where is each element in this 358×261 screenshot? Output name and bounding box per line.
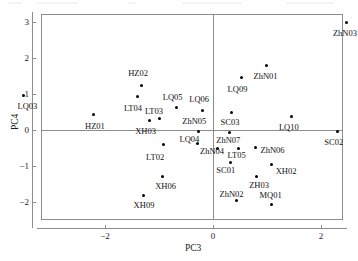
data-point-label: LQ09 xyxy=(228,85,248,94)
data-point xyxy=(270,163,273,166)
y-axis-tick-label: 3 xyxy=(9,18,29,27)
x-axis-scale-line xyxy=(37,228,347,229)
data-point xyxy=(336,130,339,133)
data-point-label: LQ04 xyxy=(180,135,200,144)
data-point-label: XH06 xyxy=(155,182,176,191)
x-axis-tick-label: 0 xyxy=(207,232,219,241)
x-axis-tick-label: 2 xyxy=(315,232,327,241)
data-point-label: XH02 xyxy=(276,167,297,176)
y-axis-tick xyxy=(32,94,36,95)
y-axis-tick xyxy=(32,130,36,131)
y-axis-tick-label: 1 xyxy=(9,90,29,99)
data-point xyxy=(140,84,143,87)
data-point-label: HZ02 xyxy=(128,69,148,78)
y-axis-tick-label: −1 xyxy=(9,162,29,171)
data-point xyxy=(235,199,238,202)
data-point-label: ZH03 xyxy=(249,181,269,190)
data-point-label: LT05 xyxy=(228,151,246,160)
data-point-label: XH03 xyxy=(135,127,156,136)
x-axis-tick xyxy=(213,225,214,229)
page-scan-artifact xyxy=(0,0,358,10)
data-point xyxy=(22,94,25,97)
y-axis-tick xyxy=(32,58,36,59)
data-point xyxy=(255,175,258,178)
scatter-plot-figure: −202−2−10123 LQ03HZ01HZ02LT04LT03XH03LQ0… xyxy=(0,0,358,261)
data-point-label: LQ03 xyxy=(18,102,38,111)
data-point xyxy=(201,109,204,112)
data-point xyxy=(228,131,231,134)
data-point-label: ZhN06 xyxy=(261,146,285,155)
y-axis-scale-line xyxy=(32,12,33,228)
data-point-label: ZhN04 xyxy=(200,147,224,156)
data-point xyxy=(265,64,268,67)
data-point-label: LT02 xyxy=(146,153,164,162)
x-axis-tick-label: −2 xyxy=(99,232,111,241)
data-point-label: LT04 xyxy=(124,104,142,113)
y-axis-tick xyxy=(32,166,36,167)
y-axis-title: PC4 xyxy=(10,114,20,130)
data-point-label: SC01 xyxy=(216,166,235,175)
data-point-label: ZhN01 xyxy=(254,72,278,81)
y-axis-tick-label: −2 xyxy=(9,198,29,207)
data-point xyxy=(240,76,243,79)
data-point xyxy=(158,117,161,120)
y-axis-tick xyxy=(32,202,36,203)
data-point-label: ZhN07 xyxy=(216,136,240,145)
data-point-label: HZ01 xyxy=(85,122,105,131)
x-axis-tick xyxy=(105,225,106,229)
data-point-label: LQ10 xyxy=(279,123,299,132)
data-point-label: XH09 xyxy=(134,201,155,210)
data-point-label: MQ01 xyxy=(259,191,281,200)
x-axis-tick xyxy=(321,225,322,229)
data-point xyxy=(345,21,348,24)
data-point xyxy=(254,146,257,149)
y-zero-axis-line xyxy=(213,14,214,220)
data-point-label: SC03 xyxy=(221,118,240,127)
data-point-label: LQ06 xyxy=(189,95,209,104)
data-point-label: SC02 xyxy=(324,138,343,147)
y-axis-tick-label: 2 xyxy=(9,54,29,63)
data-point-label: ZhN05 xyxy=(182,117,206,126)
data-point-label: LT03 xyxy=(145,107,163,116)
data-point-label: LQ05 xyxy=(163,93,183,102)
data-point xyxy=(92,113,95,116)
data-point-label: ZhN03 xyxy=(333,29,357,38)
x-axis-title: PC3 xyxy=(185,243,201,253)
data-point-label: ZhN02 xyxy=(219,190,243,199)
y-axis-tick xyxy=(32,22,36,23)
